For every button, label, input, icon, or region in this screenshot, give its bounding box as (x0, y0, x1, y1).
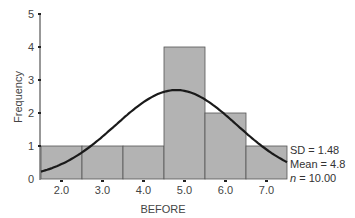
n-value: = 10.00 (296, 172, 336, 184)
x-tick-label: 7.0 (259, 184, 274, 196)
x-tick-label: 3.0 (95, 184, 110, 196)
x-tick-label: 6.0 (218, 184, 233, 196)
x-axis-ticks: 2.03.04.05.06.07.0 (54, 180, 274, 196)
histogram-bars (41, 47, 287, 179)
x-tick-label: 2.0 (54, 184, 69, 196)
histogram-chart: 012345 2.03.04.05.06.07.0 Frequency BEFO… (0, 0, 355, 218)
y-tick-label: 4 (28, 41, 34, 53)
histogram-bar (164, 47, 205, 179)
y-tick-label: 5 (28, 8, 34, 20)
histogram-bar (82, 146, 123, 179)
y-axis-title: Frequency (12, 71, 24, 123)
y-axis-ticks: 012345 (28, 8, 41, 185)
histogram-bar (246, 146, 287, 179)
histogram-bar (205, 113, 246, 179)
y-tick-label: 1 (28, 140, 34, 152)
stats-annotation: SD = 1.48 Mean = 4.8 n = 10.00 (290, 143, 345, 185)
n-label: n = 10.00 (290, 171, 345, 185)
histogram-bar (41, 146, 82, 179)
x-tick-label: 5.0 (177, 184, 192, 196)
y-tick-label: 3 (28, 74, 34, 86)
x-tick-label: 4.0 (136, 184, 151, 196)
y-tick-label: 2 (28, 107, 34, 119)
mean-label: Mean = 4.8 (290, 157, 345, 171)
histogram-bar (123, 146, 164, 179)
sd-label: SD = 1.48 (290, 143, 345, 157)
x-axis-title: BEFORE (140, 203, 185, 215)
y-tick-label: 0 (28, 173, 34, 185)
